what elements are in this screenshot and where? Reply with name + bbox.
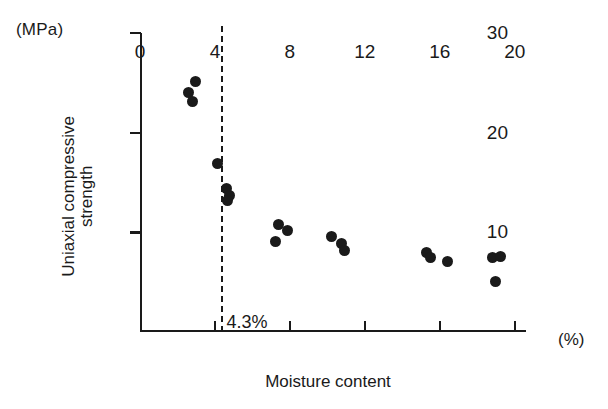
y-axis-title: Uniaxial compressive strength xyxy=(60,71,97,321)
data-point xyxy=(222,195,233,206)
scatter-series xyxy=(140,33,526,332)
data-point xyxy=(339,245,350,256)
data-point xyxy=(326,231,337,242)
data-point xyxy=(187,96,198,107)
chart-figure: (MPa) Uniaxial compressive strength Mois… xyxy=(0,0,608,409)
data-point xyxy=(212,158,223,169)
data-point xyxy=(490,276,501,287)
plot-area: 102030048121620 4.3% xyxy=(140,33,526,332)
data-point xyxy=(442,256,453,267)
data-point xyxy=(425,252,436,263)
x-axis-unit-label: (%) xyxy=(558,330,584,350)
x-axis-title: Moisture content xyxy=(0,372,608,392)
data-point xyxy=(495,251,506,262)
data-point xyxy=(282,225,293,236)
data-point xyxy=(190,76,201,87)
data-point xyxy=(270,236,281,247)
y-axis-unit-label: (MPa) xyxy=(16,20,63,40)
